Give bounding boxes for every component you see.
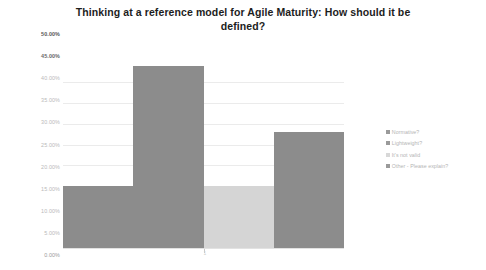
legend-swatch-icon bbox=[386, 153, 390, 157]
legend-label: Normative? bbox=[392, 129, 420, 135]
bar-1[interactable] bbox=[63, 186, 133, 248]
legend-item-1[interactable]: Normative? bbox=[386, 126, 484, 138]
legend-item-2[interactable]: Lightweight? bbox=[386, 138, 484, 150]
y-axis-label-30: 30.00% bbox=[14, 119, 60, 125]
y-axis-label-0: 0.00% bbox=[14, 252, 60, 258]
y-axis-labels: 50.00%45.00%40.00%35.00%30.00%25.00%20.0… bbox=[14, 34, 60, 255]
legend-swatch-icon bbox=[386, 130, 390, 134]
legend-label: It's not valid bbox=[392, 152, 421, 158]
legend-item-3[interactable]: It's not valid bbox=[386, 149, 484, 161]
bar-4[interactable] bbox=[274, 132, 344, 248]
chart-title-line-2: defined? bbox=[221, 20, 266, 32]
y-axis-label-20: 20.00% bbox=[14, 164, 60, 170]
chart-title: Thinking at a reference model for Agile … bbox=[52, 5, 434, 33]
y-axis-label-50: 50.00% bbox=[14, 31, 60, 37]
plot-area bbox=[63, 41, 344, 248]
y-axis-label-15: 15.00% bbox=[14, 186, 60, 192]
bar-2[interactable] bbox=[133, 66, 203, 248]
y-axis-label-25: 25.00% bbox=[14, 142, 60, 148]
y-axis-label-5: 5.00% bbox=[14, 230, 60, 236]
chart-legend: Normative?Lightweight?It's not validOthe… bbox=[386, 126, 484, 172]
chart-title-line-1: Thinking at a reference model for Agile … bbox=[76, 6, 411, 18]
legend-label: Other - Please explain? bbox=[392, 163, 449, 169]
chart-container: Thinking at a reference model for Agile … bbox=[0, 0, 486, 270]
x-axis-tick-label: 1 bbox=[196, 250, 214, 256]
legend-item-4[interactable]: Other - Please explain? bbox=[386, 161, 484, 173]
bar-3[interactable] bbox=[204, 186, 274, 248]
y-axis-label-45: 45.00% bbox=[14, 53, 60, 59]
y-axis-label-10: 10.00% bbox=[14, 208, 60, 214]
y-axis-label-35: 35.00% bbox=[14, 97, 60, 103]
legend-label: Lightweight? bbox=[392, 140, 422, 146]
y-axis-label-40: 40.00% bbox=[14, 75, 60, 81]
legend-swatch-icon bbox=[386, 141, 390, 145]
legend-swatch-icon bbox=[386, 164, 390, 168]
bar-series-group bbox=[63, 41, 344, 248]
